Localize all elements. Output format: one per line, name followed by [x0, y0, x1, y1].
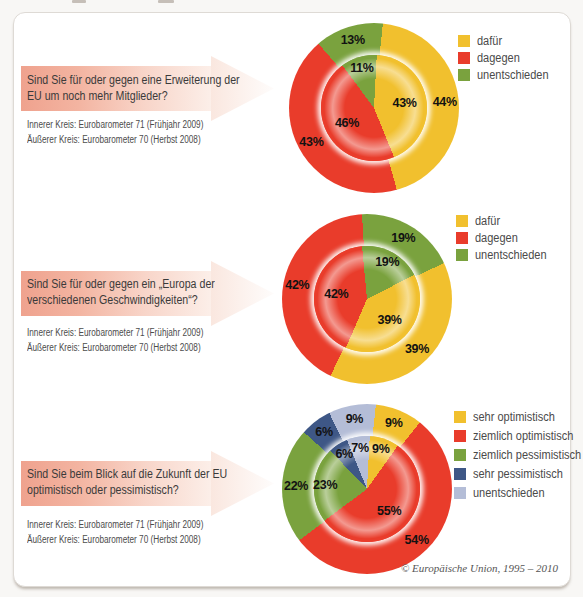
caption-outer-circle-1: Äußerer Kreis: Eurobarometer 70 (Herbst … — [27, 132, 201, 147]
legend-label: dagegen — [477, 51, 520, 65]
legend-label: dafür — [477, 34, 502, 48]
legend-item: unentschieden — [454, 483, 583, 502]
slice-value-label: 43% — [299, 135, 323, 149]
legend-swatch-icon — [454, 430, 466, 442]
legend-swatch-icon — [454, 411, 466, 423]
legend-2: dafürdagegenunentschieden — [456, 212, 556, 263]
slice-value-label: 9% — [346, 412, 363, 426]
slice-value-label: 13% — [341, 33, 365, 47]
slice-value-label: 23% — [313, 478, 337, 492]
legend-label: unentschieden — [475, 248, 547, 262]
legend-swatch-icon — [454, 468, 466, 480]
legend-label: sehr optimistisch — [473, 410, 555, 424]
chart-labels-3: 9%54%22%6%9%9%55%23%6%7% — [282, 404, 452, 574]
slice-value-label: 6% — [315, 425, 332, 439]
caption-inner-circle-2: Innerer Kreis: Eurobarometer 71 (Frühjah… — [27, 325, 203, 340]
legend-label: ziemlich optimistisch — [473, 429, 573, 443]
slice-value-label: 9% — [385, 416, 402, 430]
legend-item: dagegen — [458, 49, 558, 66]
question-text-2: Sind Sie für oder gegen ein „Europa der … — [27, 277, 241, 308]
slice-value-label: 19% — [375, 255, 399, 269]
legend-item: unentschieden — [458, 66, 558, 83]
legend-swatch-icon — [456, 232, 468, 244]
caption-inner-circle-3: Innerer Kreis: Eurobarometer 71 (Frühjah… — [27, 517, 203, 532]
question-text-3: Sind Sie beim Blick auf die Zukunft der … — [27, 467, 241, 498]
slice-value-label: 19% — [391, 231, 415, 245]
slice-value-label: 54% — [405, 533, 429, 547]
slice-value-label: 55% — [377, 504, 401, 518]
slice-value-label: 39% — [378, 313, 402, 327]
slice-value-label: 43% — [393, 96, 417, 110]
slice-value-label: 7% — [351, 441, 368, 455]
infographic-panel: Sind Sie für oder gegen eine Erweiterung… — [13, 12, 571, 587]
legend-item: sehr optimistisch — [454, 407, 583, 426]
legend-swatch-icon — [458, 52, 470, 64]
legend-swatch-icon — [458, 69, 470, 81]
chart-labels-2: 39%42%19%39%42%19% — [282, 214, 452, 384]
legend-swatch-icon — [454, 487, 466, 499]
legend-label: unentschieden — [473, 486, 545, 500]
legend-item: dagegen — [456, 229, 556, 246]
slice-value-label: 42% — [324, 287, 348, 301]
slice-value-label: 22% — [284, 479, 308, 493]
slice-value-label: 39% — [405, 342, 429, 356]
slice-value-label: 46% — [335, 116, 359, 130]
legend-swatch-icon — [456, 215, 468, 227]
legend-item: unentschieden — [456, 246, 556, 263]
question-text-1: Sind Sie für oder gegen eine Erweiterung… — [27, 73, 241, 104]
legend-item: ziemlich pessimistisch — [454, 445, 583, 464]
legend-item: sehr pessimistisch — [454, 464, 583, 483]
donut-chart-1: 44%43%13%43%46%11% — [289, 23, 459, 193]
legend-item: ziemlich optimistisch — [454, 426, 583, 445]
caption-inner-circle-1: Innerer Kreis: Eurobarometer 71 (Frühjah… — [27, 117, 203, 132]
slice-value-label: 9% — [372, 442, 389, 456]
chart-labels-1: 44%43%13%43%46%11% — [289, 23, 459, 193]
slice-value-label: 42% — [285, 278, 309, 292]
legend-label: dagegen — [475, 231, 518, 245]
legend-label: ziemlich pessimistisch — [473, 448, 581, 462]
legend-item: dafür — [458, 32, 558, 49]
caption-outer-circle-3: Äußerer Kreis: Eurobarometer 70 (Herbst … — [27, 532, 201, 547]
donut-chart-2: 39%42%19%39%42%19% — [282, 214, 452, 384]
slice-value-label: 44% — [433, 95, 457, 109]
legend-item: dafür — [456, 212, 556, 229]
legend-3: sehr optimistischziemlich optimistischzi… — [454, 407, 583, 502]
slice-value-label: 6% — [335, 447, 352, 461]
caption-outer-circle-2: Äußerer Kreis: Eurobarometer 70 (Herbst … — [27, 340, 201, 355]
donut-chart-3: 9%54%22%6%9%9%55%23%6%7% — [282, 404, 452, 574]
cropped-text-remnant — [0, 0, 583, 4]
legend-swatch-icon — [458, 35, 470, 47]
legend-label: dafür — [475, 214, 500, 228]
legend-label: unentschieden — [477, 68, 549, 82]
legend-swatch-icon — [456, 249, 468, 261]
legend-swatch-icon — [454, 449, 466, 461]
copyright-text: © Europäische Union, 1995 – 2010 — [401, 562, 558, 574]
legend-label: sehr pessimistisch — [473, 467, 563, 481]
legend-1: dafürdagegenunentschieden — [458, 32, 558, 83]
slice-value-label: 11% — [350, 61, 373, 75]
